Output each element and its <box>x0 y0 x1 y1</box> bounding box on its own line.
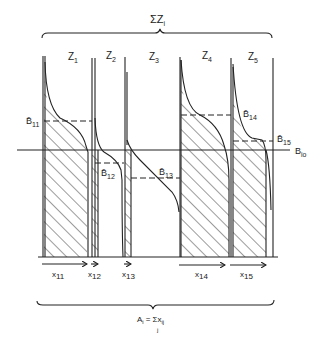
diagram-canvas: ΣZi Z1 Z2 Z3 Z4 Z5 <box>0 0 323 350</box>
top-brace-label: ΣZi <box>150 13 166 27</box>
b12-label: B̄12 <box>101 168 115 180</box>
zone-label-z4: Z4 <box>202 50 212 63</box>
b11-label: B̄11 <box>26 116 39 128</box>
hatched-area-z4 <box>181 82 229 257</box>
zone-label-z5: Z5 <box>248 51 258 64</box>
x12-label: x12 <box>88 270 101 281</box>
bottom-brace <box>37 300 274 309</box>
zone-label-z2: Z2 <box>106 50 116 63</box>
bottom-brace-label: Ai= Σxij <box>137 315 164 325</box>
b13-label: B̄13 <box>159 167 173 179</box>
zone-label-z3: Z3 <box>149 51 159 64</box>
b-io-label: Bio <box>295 146 307 158</box>
b14-label: B̄14 <box>243 109 257 121</box>
hatched-area-z3 <box>125 150 131 257</box>
x-arrows <box>42 264 266 265</box>
b15-label: B̄15 <box>277 134 291 146</box>
hatched-area-z1 <box>44 78 87 257</box>
zone-label-z1: Z1 <box>68 51 78 64</box>
x11-label: x11 <box>52 270 65 281</box>
x13-label: x13 <box>122 270 135 281</box>
x15-label: x15 <box>240 270 253 281</box>
top-brace <box>42 29 272 38</box>
bottom-brace-sum-index: j <box>156 327 158 333</box>
x14-label: x14 <box>195 270 208 281</box>
